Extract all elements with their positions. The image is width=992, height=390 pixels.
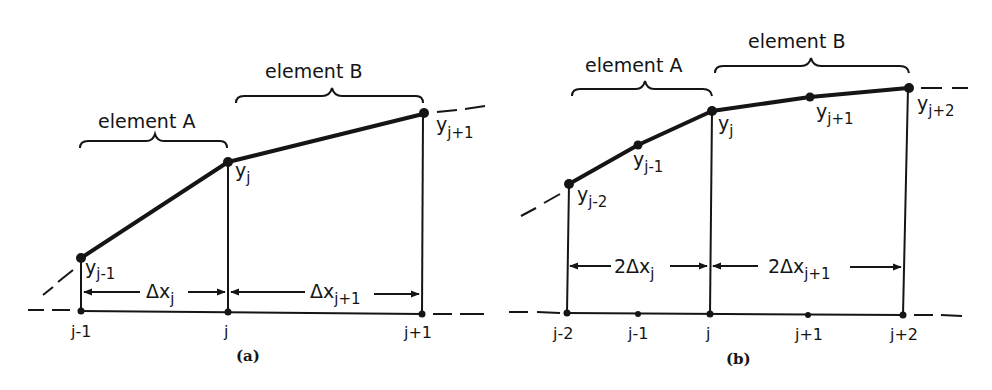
y-label-j-minus-1: yj-1 xyxy=(85,256,115,283)
caption-b: (b) xyxy=(726,350,751,368)
baseline-b xyxy=(509,312,962,316)
verticals-b xyxy=(567,88,908,315)
y-label-j-minus-1-b: yj-1 xyxy=(633,148,663,176)
panel-a xyxy=(28,88,485,318)
spacing-arrows-a xyxy=(84,292,419,294)
baseline-a xyxy=(28,310,484,314)
caption-a: (a) xyxy=(236,347,260,365)
brace-element-a-b xyxy=(572,81,712,96)
y-label-j-b: yj xyxy=(718,112,733,140)
piecewise-curve-b xyxy=(569,88,908,184)
labels-b: element A element B yj-2 yj-1 yj yj+1 yj… xyxy=(552,30,955,368)
labels-a: element A element B yj-1 yj yj+1 Δxj Δxj… xyxy=(70,60,474,365)
element-a-label-b: element A xyxy=(585,54,682,76)
delta-x-j-label: Δxj xyxy=(146,280,174,308)
y-label-j: yj xyxy=(235,159,250,187)
piecewise-curve-a xyxy=(81,114,423,258)
node-label-j-plus-2: j+2 xyxy=(889,325,918,344)
node-label-j: j xyxy=(223,322,228,341)
node-dots-a xyxy=(76,108,429,318)
element-a-label: element A xyxy=(98,110,195,132)
element-b-label: element B xyxy=(265,60,362,82)
node-label-j-plus-1-b: j+1 xyxy=(794,325,823,344)
node-label-j-minus-1-b: j-1 xyxy=(627,324,648,343)
two-delta-x-j-plus-1-label: 2Δxj+1 xyxy=(768,255,831,283)
finite-element-diagram: element A element B yj-1 yj yj+1 Δxj Δxj… xyxy=(0,0,992,390)
y-label-j-plus-1: yj+1 xyxy=(436,113,474,142)
node-label-j-minus-2: j-2 xyxy=(552,324,573,343)
node-label-j-b: j xyxy=(705,324,710,343)
y-label-j-plus-1-b: yj+1 xyxy=(816,100,854,128)
node-dots-b xyxy=(564,83,915,319)
delta-x-j-plus-1-label: Δxj+1 xyxy=(310,280,361,308)
y-label-j-plus-2: yj+2 xyxy=(917,92,955,120)
node-label-j-plus-1: j+1 xyxy=(403,323,432,342)
element-b-label-b: element B xyxy=(748,30,845,52)
node-label-j-minus-1: j-1 xyxy=(70,322,91,341)
brace-element-a xyxy=(80,134,227,148)
brace-element-b xyxy=(236,88,423,103)
y-label-j-minus-2: yj-2 xyxy=(577,183,607,211)
two-delta-x-j-label: 2Δxj xyxy=(614,255,655,283)
brace-element-b-b xyxy=(715,58,909,73)
verticals-a xyxy=(81,114,423,314)
